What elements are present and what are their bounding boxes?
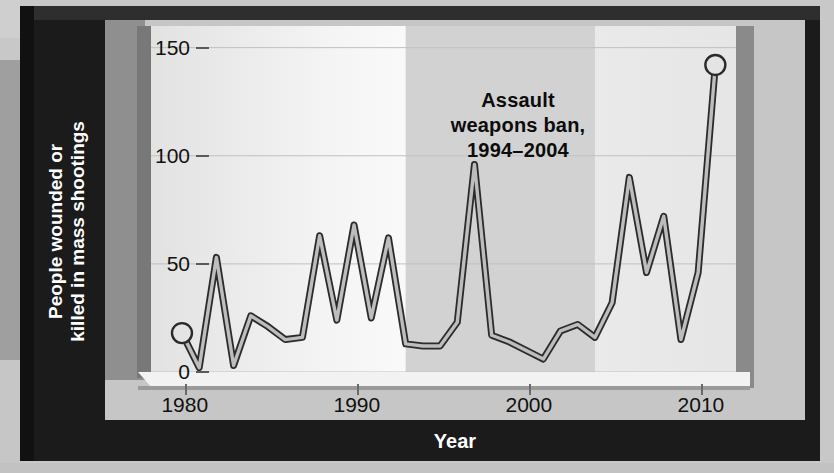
plot-area — [151, 26, 736, 372]
x-axis-tick-mark — [701, 384, 703, 395]
x-axis-tick-labels: 1980199020002010 — [40, 394, 834, 428]
ban-period-shading — [406, 26, 595, 372]
x-axis-tick-mark — [185, 384, 187, 395]
y-axis-tick-mark — [196, 47, 209, 49]
x-axis-tick-label: 1980 — [161, 394, 208, 415]
scan-artifact-strip-bottom — [0, 360, 20, 473]
scan-artifact-strip-top — [0, 0, 20, 38]
y-axis-title-line-1: People wounded or — [45, 121, 67, 342]
y-axis-tick-label: 0 — [178, 361, 190, 382]
annotation-line-3: 1994–2004 — [418, 138, 618, 163]
line-chart-svg — [151, 26, 736, 372]
y-axis-tick-label: 150 — [155, 37, 190, 58]
x-axis-tick-mark — [357, 384, 359, 395]
x-axis-title: Year — [105, 430, 805, 453]
x-axis-tick-label: 1990 — [333, 394, 380, 415]
y-axis-tick-label: 100 — [155, 145, 190, 166]
chart-floor-edge — [138, 386, 750, 390]
chart-frame: Assault weapons ban, 1994–2004 050100150… — [20, 6, 820, 461]
y-axis-tick-mark — [196, 371, 209, 373]
ban-period-rect — [406, 26, 595, 372]
chart-wall-right-face — [736, 26, 754, 388]
x-axis-tick-label: 2010 — [678, 394, 725, 415]
ban-annotation-text: Assault weapons ban, 1994–2004 — [418, 88, 618, 162]
y-axis-title: People wounded or killed in mass shootin… — [44, 66, 90, 396]
annotation-line-1: Assault — [418, 88, 618, 113]
scan-artifact-strip-footer — [0, 463, 834, 473]
y-axis-tick-mark — [196, 155, 209, 157]
scan-artifact-strip-middle — [0, 60, 20, 360]
annotation-line-2: weapons ban, — [418, 113, 618, 138]
y-axis-title-line-2: killed in mass shootings — [67, 121, 89, 342]
x-axis-tick-mark — [529, 384, 531, 395]
x-axis-tick-label: 2000 — [506, 394, 553, 415]
frame-left-bevel — [20, 6, 34, 461]
y-axis-tick-label: 50 — [167, 253, 190, 274]
data-point-marker — [705, 55, 725, 75]
y-axis-tick-mark — [196, 263, 209, 265]
